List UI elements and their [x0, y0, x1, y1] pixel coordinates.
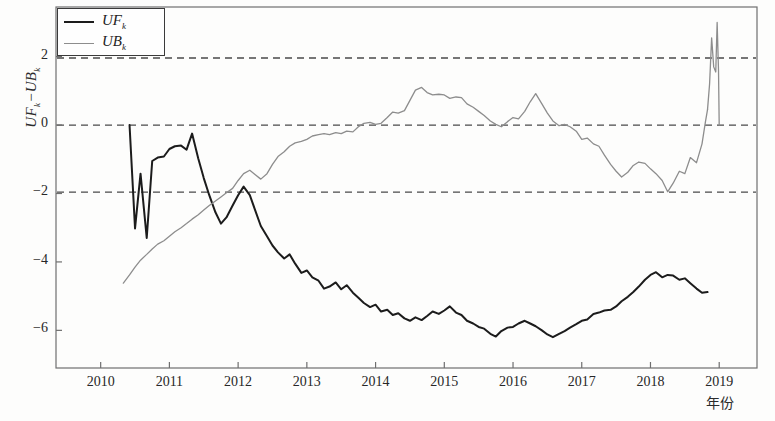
chart-plot-area: [0, 0, 775, 421]
x-tick-label: 2014: [351, 374, 401, 390]
chart-legend: UFk UBk: [57, 8, 165, 56]
y-tick-label: 2: [18, 47, 48, 63]
x-tick-label: 2013: [282, 374, 332, 390]
x-tick-label: 2016: [488, 374, 538, 390]
legend-item-uf: UFk: [64, 12, 126, 32]
x-tick-label: 2010: [76, 374, 126, 390]
x-tick-label: 2018: [625, 374, 675, 390]
x-tick-label: 2011: [144, 374, 194, 390]
legend-line-swatch-ub: [64, 43, 94, 44]
x-tick-label: 2019: [694, 374, 744, 390]
plot-frame: [56, 7, 757, 368]
chart-figure: UFk−UBk 年份 UFk UBk 20−2−4−62010201120122…: [0, 0, 775, 421]
x-axis-label: 年份: [706, 392, 734, 412]
series-line-UB_k-terminal-spike: [708, 22, 720, 125]
series-line-UF_k: [130, 125, 708, 337]
legend-item-ub: UBk: [64, 33, 126, 53]
y-tick-label: −4: [18, 252, 48, 268]
x-tick-label: 2012: [213, 374, 263, 390]
y-tick-label: −2: [18, 183, 48, 199]
legend-line-swatch-uf: [64, 21, 94, 23]
series-line-UB_k: [123, 87, 707, 283]
y-tick-label: −6: [18, 320, 48, 336]
x-tick-label: 2015: [419, 374, 469, 390]
legend-label-uf: UFk: [102, 13, 126, 31]
y-tick-label: 0: [18, 115, 48, 131]
x-tick-label: 2017: [557, 374, 607, 390]
legend-label-ub: UBk: [102, 34, 126, 52]
